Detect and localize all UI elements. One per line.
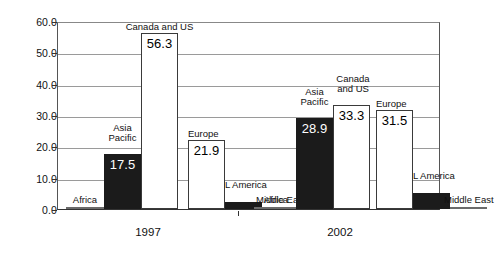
bar-label-2002-canada-and-us-line2: and US bbox=[333, 84, 373, 95]
bar-value-2002-europe: 31.5 bbox=[377, 114, 412, 127]
bar-value-1997-europe: 21.9 bbox=[189, 144, 224, 157]
bar-label-1997-l-america: L America bbox=[225, 180, 285, 191]
y-tick-label-60: 60.0 bbox=[9, 17, 57, 28]
bar-label-1997-africa: Africa bbox=[66, 195, 104, 206]
bar-2002-middle-east[interactable] bbox=[450, 207, 487, 209]
x-axis-label-2002: 2002 bbox=[310, 226, 370, 238]
bar-value-1997-asia-pacific: 17.5 bbox=[105, 158, 140, 171]
y-tick-label-20: 20.0 bbox=[9, 142, 57, 153]
bars-layer: Africa 17.5 Asia Pacific 56.3 Canada and… bbox=[58, 23, 439, 209]
y-tick-label-50: 50.0 bbox=[9, 48, 57, 59]
bar-1997-europe[interactable]: 21.9 bbox=[188, 140, 225, 209]
bar-1997-canada-and-us[interactable]: 56.3 bbox=[141, 33, 178, 209]
bar-label-2002-middle-east: Middle East bbox=[444, 195, 499, 206]
bar-1997-africa[interactable] bbox=[66, 207, 104, 209]
bar-2002-canada-and-us[interactable]: 33.3 bbox=[333, 105, 370, 209]
bar-label-1997-asia-pacific-line2: Pacific bbox=[104, 133, 141, 144]
x-tick-divider bbox=[238, 211, 239, 216]
bar-value-2002-canada-and-us: 33.3 bbox=[334, 109, 369, 122]
bar-1997-asia-pacific[interactable]: 17.5 bbox=[104, 154, 141, 209]
y-tick-label-10: 10.0 bbox=[9, 174, 57, 185]
bar-value-2002-asia-pacific: 28.9 bbox=[297, 122, 332, 135]
bar-2002-europe[interactable]: 31.5 bbox=[376, 110, 413, 209]
x-axis-label-1997: 1997 bbox=[118, 226, 178, 238]
bar-label-2002-europe: Europe bbox=[376, 99, 420, 110]
y-tick-label-30: 30.0 bbox=[9, 111, 57, 122]
bar-label-2002-asia-pacific-line2: Pacific bbox=[296, 97, 333, 108]
plot-area: Africa 17.5 Asia Pacific 56.3 Canada and… bbox=[57, 22, 440, 210]
bar-label-2002-l-america: L America bbox=[413, 171, 475, 182]
y-tick-mark-0 bbox=[52, 210, 57, 211]
y-axis: 60.0 50.0 40.0 30.0 20.0 10.0 0.0 bbox=[0, 22, 57, 210]
bar-value-1997-canada-and-us: 56.3 bbox=[142, 37, 177, 50]
bar-2002-asia-pacific[interactable]: 28.9 bbox=[296, 118, 333, 209]
bar-label-2002-africa: Africa bbox=[256, 195, 296, 206]
bar-label-1997-canada-and-us: Canada and US bbox=[119, 22, 200, 33]
bar-2002-africa[interactable] bbox=[256, 207, 296, 209]
y-tick-label-40: 40.0 bbox=[9, 80, 57, 91]
y-tick-label-0: 0.0 bbox=[9, 205, 57, 216]
bar-label-1997-europe: Europe bbox=[188, 129, 232, 140]
